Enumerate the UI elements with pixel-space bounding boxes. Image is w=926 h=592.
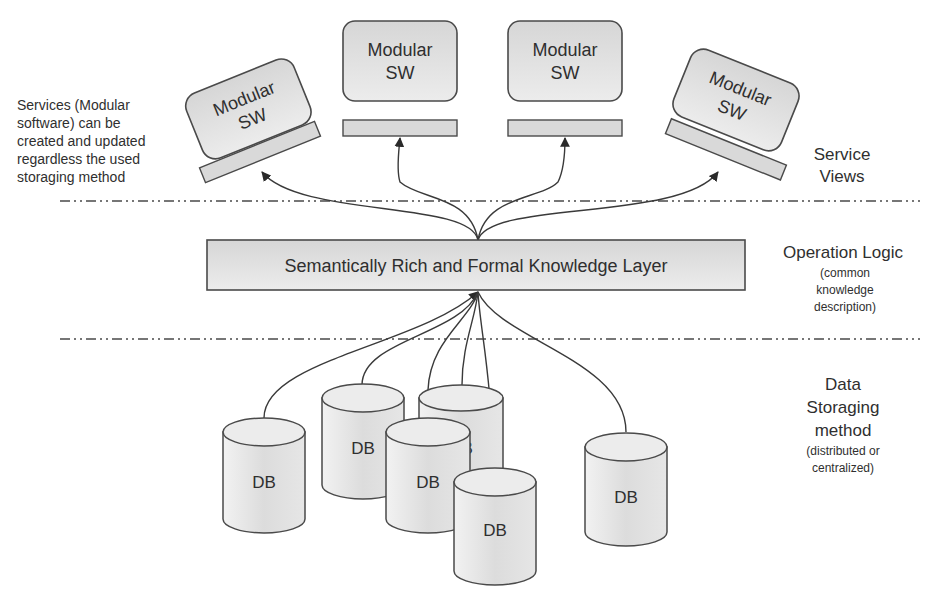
module-sw-3: Modular SW: [508, 21, 622, 101]
layer-label-service-views: Service Views: [814, 145, 871, 186]
svg-text:method: method: [815, 421, 872, 440]
svg-text:Views: Views: [819, 167, 864, 186]
module-label: Modular: [367, 40, 432, 60]
service-connectors: [262, 138, 718, 240]
knowledge-layer-label: Semantically Rich and Formal Knowledge L…: [284, 256, 667, 276]
svg-text:regardless the used: regardless the used: [17, 151, 140, 167]
services-annotation: Services (Modular software) can be creat…: [17, 97, 145, 185]
svg-text:Service: Service: [814, 145, 871, 164]
module-label: Modular: [532, 40, 597, 60]
svg-text:Services (Modular: Services (Modular: [17, 97, 130, 113]
svg-text:(distributed or: (distributed or: [806, 444, 879, 458]
module-label: SW: [386, 63, 415, 83]
database-label: DB: [351, 439, 375, 458]
module-sw-2: Modular SW: [343, 21, 457, 101]
module-interface-bar-3: [508, 120, 622, 136]
database-label: DB: [252, 473, 276, 492]
module-interface-bar-2: [343, 120, 457, 136]
layer-label-operation-logic: Operation Logic (common knowledge descri…: [783, 243, 904, 314]
layer-label-data-storage: Data Storaging method (distributed or ce…: [806, 375, 879, 475]
database-5: DB: [454, 468, 536, 585]
svg-text:Operation Logic: Operation Logic: [783, 243, 904, 262]
svg-text:software) can be: software) can be: [17, 115, 121, 131]
svg-text:created and updated: created and updated: [17, 133, 145, 149]
database-label: DB: [416, 473, 440, 492]
database-label: DB: [614, 488, 638, 507]
database-6: DB: [585, 433, 667, 546]
svg-text:description): description): [814, 300, 876, 314]
database-label: DB: [483, 521, 507, 540]
database-1: DB: [223, 418, 305, 533]
svg-text:Data: Data: [825, 375, 861, 394]
module-label: SW: [551, 63, 580, 83]
svg-text:(common: (common: [820, 266, 870, 280]
svg-text:centralized): centralized): [812, 461, 874, 475]
svg-text:storaging method: storaging method: [17, 169, 125, 185]
svg-text:Storaging: Storaging: [807, 398, 880, 417]
architecture-diagram: Modular SW Modular SW Modular SW Modular…: [0, 0, 926, 592]
svg-text:knowledge: knowledge: [816, 283, 874, 297]
knowledge-layer: Semantically Rich and Formal Knowledge L…: [207, 240, 745, 290]
